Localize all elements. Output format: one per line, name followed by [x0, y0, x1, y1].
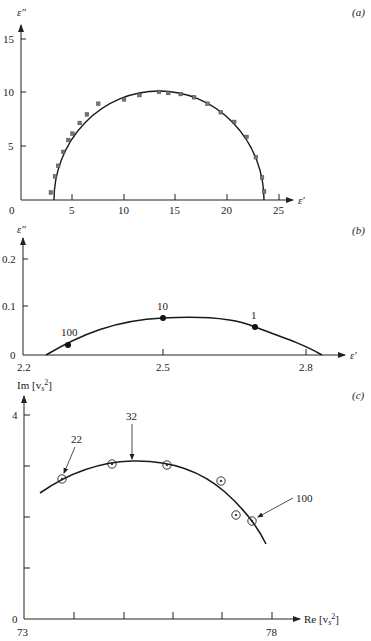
a-data-point	[192, 95, 196, 99]
svg-text:10: 10	[3, 86, 15, 98]
svg-text:5: 5	[8, 140, 14, 152]
b-y-axis-title: ε″	[17, 223, 26, 235]
b-label-10: 10	[157, 300, 169, 312]
a-data-point	[254, 155, 258, 159]
svg-text:15: 15	[3, 33, 15, 45]
c-arrow-22	[64, 447, 75, 473]
c-point	[248, 517, 256, 525]
a-data-point	[85, 113, 89, 117]
a-x-axis-title: ε′	[298, 194, 305, 206]
a-data-point	[166, 91, 170, 95]
a-data-point	[157, 90, 161, 94]
b-point-100	[65, 342, 71, 348]
b-label-100: 100	[61, 326, 78, 338]
c-arrow-100	[258, 498, 293, 517]
a-data-point	[56, 164, 60, 168]
a-data-point	[138, 93, 142, 97]
a-data-point	[262, 190, 266, 194]
svg-text:10: 10	[118, 204, 130, 216]
svg-text:0: 0	[9, 204, 15, 216]
svg-text:5: 5	[69, 204, 75, 216]
svg-text:25: 25	[273, 204, 285, 216]
panel-c: (c) Im [vs2] Re [vs2] 0 4 73 78	[12, 378, 365, 638]
svg-text:20: 20	[221, 204, 233, 216]
svg-text:2.5: 2.5	[156, 361, 170, 373]
svg-text:0.1: 0.1	[2, 300, 16, 312]
a-data-point	[71, 132, 75, 136]
panel-b: (b) ε″ ε′ 0 0.1 0.2 2.2 2.5 2.8 100 10 1	[2, 223, 365, 373]
c-y-ticks: 0 4	[12, 409, 30, 625]
c-fit-curve	[40, 461, 266, 544]
b-x-ticks: 2.2 2.5 2.8	[17, 349, 313, 373]
c-x-ticks: 73 78	[17, 612, 278, 638]
c-annotation-32: 32	[126, 410, 137, 422]
a-data-point	[61, 150, 65, 154]
c-point	[232, 511, 240, 519]
a-data-point	[53, 175, 57, 179]
c-x-axis-title: Re [vs2]	[304, 612, 339, 627]
b-point-10	[160, 315, 166, 321]
svg-text:73: 73	[17, 626, 29, 638]
svg-text:0.2: 0.2	[2, 253, 16, 265]
a-data-point	[179, 92, 183, 96]
c-annotations: 22 32 100	[64, 410, 313, 517]
b-data-points: 100 10 1	[61, 300, 258, 348]
a-x-ticks: 0 5 10 15 20 25	[9, 194, 285, 216]
a-data-point	[49, 191, 53, 195]
svg-text:2.2: 2.2	[17, 361, 31, 373]
b-x-axis-title: ε′	[350, 349, 357, 361]
b-label-1: 1	[251, 309, 257, 321]
a-data-points	[49, 90, 266, 194]
a-y-ticks: 5 10 15	[3, 33, 26, 152]
a-data-point	[206, 102, 210, 106]
svg-text:15: 15	[169, 204, 181, 216]
a-fit-curve	[54, 91, 264, 200]
c-annotation-22: 22	[71, 433, 82, 445]
a-data-point	[78, 121, 82, 125]
a-data-point	[122, 98, 126, 102]
a-data-point	[232, 120, 236, 124]
svg-text:0: 0	[10, 349, 16, 361]
panel-c-label: (c)	[352, 389, 365, 402]
svg-text:78: 78	[266, 626, 278, 638]
a-data-point	[67, 138, 71, 142]
svg-text:0: 0	[12, 613, 18, 625]
svg-text:4: 4	[12, 409, 18, 421]
b-y-ticks: 0 0.1 0.2	[2, 253, 28, 361]
b-point-1	[252, 324, 258, 330]
c-y-axis-title: Im [vs2]	[17, 378, 52, 393]
a-data-point	[96, 102, 100, 106]
svg-text:2.8: 2.8	[299, 361, 313, 373]
panel-a: (a) ε″ ε′ 5 10 15 0 5 10 15 20 25	[3, 6, 365, 216]
c-point	[217, 477, 225, 485]
b-curve	[46, 317, 322, 355]
panel-b-label: (b)	[352, 224, 365, 237]
a-data-point	[260, 176, 264, 180]
a-data-point	[245, 135, 249, 139]
a-y-axis-title: ε″	[17, 6, 26, 18]
a-data-point	[219, 110, 223, 114]
figure: (a) ε″ ε′ 5 10 15 0 5 10 15 20 25	[0, 0, 371, 641]
panel-a-label: (a)	[352, 6, 365, 19]
c-annotation-100: 100	[296, 492, 313, 504]
